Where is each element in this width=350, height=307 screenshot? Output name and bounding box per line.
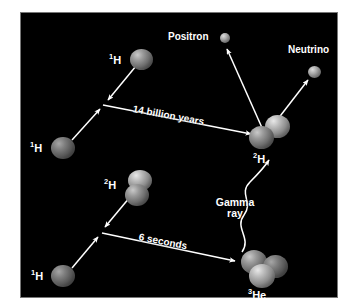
nucleus-h1-bottom [51, 265, 75, 287]
nucleus-positron [220, 33, 230, 43]
label-h1-bottom: 1H [31, 269, 43, 283]
arrow-to-positron [227, 49, 263, 130]
arrow-h1-bottom-to-collision [72, 237, 98, 268]
label-gamma-ray-line2: ray [209, 208, 261, 219]
arrow-h1-top-to-collision [108, 66, 136, 100]
label-h1-left: 1H [30, 141, 42, 155]
label-deuterium-symbol: H [257, 153, 265, 165]
arrow-h2-to-collision [105, 197, 130, 227]
label-gamma-ray: Gamma ray [209, 197, 261, 220]
label-h1-top: 1H [109, 53, 121, 67]
nucleus-h1-left [51, 137, 75, 159]
nucleus-deuterium-neutron [249, 126, 274, 149]
nucleus-he3-c [249, 264, 275, 288]
label-h1-left-symbol: H [34, 142, 42, 154]
label-helium3-symbol: He [252, 289, 266, 298]
label-14-billion-years: 14 billion years [132, 103, 205, 127]
label-h1-bottom-symbol: H [35, 270, 43, 282]
fusion-diagram-figure: 1H 1H 14 billion years 2H Positron Neutr… [0, 0, 350, 307]
arrow-h1-left-to-collision [72, 109, 100, 140]
nucleus-h1-top [130, 49, 153, 70]
label-6-seconds: 6 seconds [138, 231, 188, 251]
label-helium3: 3He [248, 288, 266, 298]
label-h2-top-symbol: H [108, 179, 116, 191]
diagram-panel: 1H 1H 14 billion years 2H Positron Neutr… [20, 12, 338, 298]
label-h1-top-symbol: H [113, 54, 121, 66]
nucleus-h2-top-neutron [125, 184, 149, 206]
label-deuterium: 2H [253, 152, 265, 166]
label-positron: Positron [168, 32, 209, 43]
label-h2-top: 2H [104, 178, 116, 192]
nucleus-neutrino [308, 66, 321, 78]
label-neutrino: Neutrino [288, 45, 329, 56]
